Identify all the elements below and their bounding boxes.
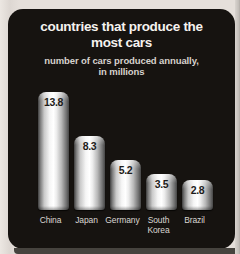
bar-germany: 5.2 xyxy=(110,160,141,210)
page-right-edge xyxy=(235,0,240,254)
category-label-germany: Germany xyxy=(104,215,141,235)
chart-subtitle-line2: in millions xyxy=(16,66,227,77)
bar-brazil: 2.8 xyxy=(182,180,213,210)
page-background: countries that produce the most cars num… xyxy=(0,0,240,254)
bar-value-label: 5.2 xyxy=(110,164,141,176)
bar-japan: 8.3 xyxy=(74,136,105,210)
chart-title-line1: countries that produce the xyxy=(16,19,227,35)
chart-title: countries that produce the most cars xyxy=(16,19,227,51)
chart-title-line2: most cars xyxy=(16,35,227,51)
category-label-brazil: Brazil xyxy=(176,215,213,235)
bar-value-label: 3.5 xyxy=(146,178,177,190)
bar-chart: 13.8 8.3 5.2 3.5 2.8 xyxy=(38,92,213,210)
category-label-south-korea: South Korea xyxy=(140,215,177,235)
bar-south-korea: 3.5 xyxy=(146,174,177,210)
category-axis-labels: China Japan Germany South Korea Brazil xyxy=(35,215,210,235)
chart-subtitle: number of cars produced annually, in mil… xyxy=(16,55,227,77)
category-label-japan: Japan xyxy=(68,215,105,235)
bar-value-label: 13.8 xyxy=(38,96,69,108)
infographic-card: countries that produce the most cars num… xyxy=(8,9,235,249)
card-bottom-shadow xyxy=(14,248,240,254)
chart-subtitle-line1: number of cars produced annually, xyxy=(16,55,227,66)
bar-value-label: 8.3 xyxy=(74,140,105,152)
bar-china: 13.8 xyxy=(38,92,69,210)
category-label-china: China xyxy=(32,215,69,235)
bar-value-label: 2.8 xyxy=(182,184,213,196)
